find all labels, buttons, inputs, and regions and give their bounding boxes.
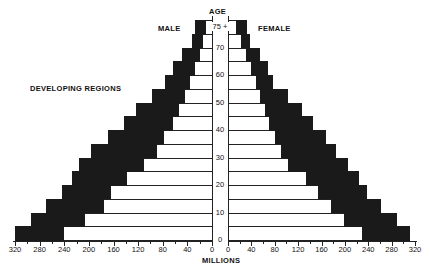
age-tick-label: 70 — [213, 43, 227, 52]
age-tick-left — [209, 116, 213, 117]
male-label: MALE — [158, 24, 180, 33]
female-x-tick — [263, 241, 264, 244]
x-tick-label: 320 — [3, 245, 27, 254]
age-tick-right — [228, 185, 232, 186]
female-x-tick — [380, 241, 381, 244]
age-tick-right — [228, 199, 232, 200]
age-tick-right — [228, 116, 232, 117]
x-tick-label: 280 — [28, 245, 52, 254]
female-bar-inner — [228, 171, 306, 186]
age-tick-label: 75 + — [211, 22, 229, 31]
x-tick-label: 120 — [286, 245, 310, 254]
age-tick-label: 0 — [213, 235, 227, 244]
female-bar-inner — [228, 199, 331, 214]
population-pyramid-chart: 0040408080120120160160200200240240280280… — [0, 0, 431, 267]
age-tick-right — [228, 34, 232, 35]
age-tick-left — [209, 61, 213, 62]
x-tick-label: 240 — [52, 245, 76, 254]
female-bar-inner — [228, 89, 260, 104]
age-tick-right — [228, 213, 232, 214]
female-bar-inner — [228, 116, 269, 131]
male-bar-inner — [200, 48, 212, 63]
female-x-tick — [403, 241, 404, 244]
male-bar-inner — [85, 213, 212, 228]
female-label: FEMALE — [258, 24, 291, 33]
age-tick-right — [228, 240, 232, 241]
x-tick-label: 200 — [77, 245, 101, 254]
female-bar-inner — [228, 103, 265, 118]
age-tick-label: 30 — [213, 153, 227, 162]
male-bar-inner — [203, 34, 212, 49]
age-tick-right — [228, 103, 232, 104]
male-x-tick — [27, 241, 28, 244]
male-bar-inner — [157, 144, 212, 159]
male-x-tick — [150, 241, 151, 244]
x-tick-label: 240 — [356, 245, 380, 254]
male-bar-inner — [144, 158, 212, 173]
female-bar-inner — [228, 130, 275, 145]
age-tick-right — [228, 130, 232, 131]
female-x-tick — [310, 241, 311, 244]
female-x-tick — [333, 241, 334, 244]
female-bar-inner — [228, 20, 236, 35]
age-tick-label: 20 — [213, 180, 227, 189]
x-tick-label: 280 — [380, 245, 404, 254]
x-tick-label: 40 — [239, 245, 263, 254]
male-bar-inner — [64, 226, 212, 241]
female-x-tick — [286, 241, 287, 244]
male-x-tick — [52, 241, 53, 244]
male-bar-inner — [190, 75, 212, 90]
male-x-tick — [126, 241, 127, 244]
x-tick-label: 80 — [263, 245, 287, 254]
x-tick-label: 160 — [310, 245, 334, 254]
age-tick-label: 40 — [213, 125, 227, 134]
x-tick-label: 120 — [126, 245, 150, 254]
female-bar-inner — [228, 48, 246, 63]
age-axis-title: AGE — [209, 7, 226, 16]
female-bar-inner — [228, 34, 241, 49]
male-bar-inner — [111, 185, 212, 200]
male-bar-inner — [164, 130, 212, 145]
age-tick-left — [209, 199, 213, 200]
age-tick-left — [209, 171, 213, 172]
male-bar-inner — [179, 103, 212, 118]
age-tick-right — [228, 61, 232, 62]
male-bar-inner — [195, 61, 212, 76]
male-x-tick — [77, 241, 78, 244]
age-tick-left — [209, 89, 213, 90]
male-bar-inner — [173, 116, 212, 131]
male-x-tick — [175, 241, 176, 244]
male-x-tick — [200, 241, 201, 244]
age-tick-right — [228, 158, 232, 159]
x-tick-label: 160 — [102, 245, 126, 254]
age-tick-left — [209, 20, 213, 21]
x-tick-label: 40 — [175, 245, 199, 254]
age-tick-label: 60 — [213, 70, 227, 79]
female-bar-inner — [228, 75, 256, 90]
age-tick-left — [209, 34, 213, 35]
x-tick-label: 200 — [333, 245, 357, 254]
age-tick-left — [209, 226, 213, 227]
region-title: DEVELOPING REGIONS — [30, 84, 121, 93]
male-bar-inner — [104, 199, 212, 214]
female-bar-inner — [228, 158, 288, 173]
age-tick-right — [228, 48, 232, 49]
female-x-tick — [240, 241, 241, 244]
male-bar-inner — [185, 89, 212, 104]
x-axis-title: MILLIONS — [202, 256, 240, 265]
x-tick-label: 320 — [403, 245, 427, 254]
male-bar-inner — [127, 171, 212, 186]
female-x-axis-line — [228, 241, 417, 242]
age-tick-right — [228, 171, 232, 172]
female-bar-inner — [228, 213, 344, 228]
female-bar-inner — [228, 61, 251, 76]
age-tick-right — [228, 20, 232, 21]
female-x-tick — [357, 241, 358, 244]
male-x-tick — [101, 241, 102, 244]
age-tick-right — [228, 89, 232, 90]
age-tick-right — [228, 144, 232, 145]
age-tick-right — [228, 226, 232, 227]
female-bar-inner — [228, 185, 318, 200]
age-tick-left — [209, 144, 213, 145]
x-tick-label: 0 — [216, 245, 240, 254]
